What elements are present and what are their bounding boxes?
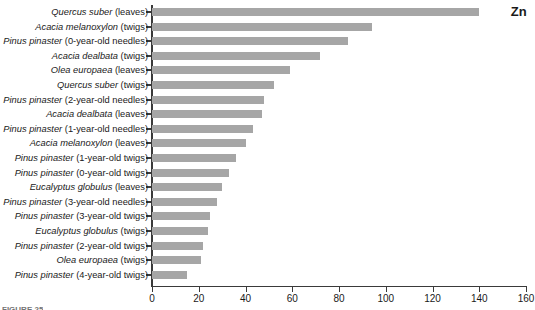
plant-part: (leaves) — [112, 109, 148, 119]
bar — [152, 52, 320, 60]
value-tick-label: 100 — [377, 293, 394, 304]
plant-part: (leaves) — [112, 7, 148, 17]
species-name: Olea europaea — [57, 255, 119, 265]
plant-part: (leaves) — [112, 138, 148, 148]
category-label: Pinus pinaster (0-year-old twigs) — [15, 168, 148, 178]
species-name: Pinus pinaster — [15, 241, 74, 251]
bar — [152, 271, 187, 279]
bar — [152, 154, 236, 162]
species-name: Pinus pinaster — [3, 124, 62, 134]
plant-part: (twigs) — [118, 22, 148, 32]
bar — [152, 110, 262, 118]
species-name: Pinus pinaster — [3, 36, 62, 46]
plant-part: (leaves) — [112, 182, 148, 192]
bar — [152, 242, 203, 250]
category-label: Acacia melanoxylon (leaves) — [30, 138, 148, 148]
bar — [152, 198, 217, 206]
category-label: Quercus suber (twigs) — [57, 80, 148, 90]
plant-part: (1-year-old needles) — [62, 124, 148, 134]
species-name: Quercus suber — [51, 7, 112, 17]
bar — [152, 169, 229, 177]
value-tick-label: 120 — [424, 293, 441, 304]
category-label: Olea europaea (leaves) — [51, 65, 148, 75]
bar — [152, 256, 201, 264]
value-tick — [152, 287, 153, 292]
value-tick-label: 140 — [471, 293, 488, 304]
bar — [152, 23, 372, 31]
species-name: Pinus pinaster — [3, 197, 62, 207]
value-tick-label: 20 — [193, 293, 204, 304]
species-name: Acacia melanoxylon — [30, 138, 113, 148]
bar — [152, 66, 290, 74]
category-label: Acacia dealbata (twigs) — [52, 51, 148, 61]
category-label: Pinus pinaster (2-year-old needles) — [3, 95, 148, 105]
bar — [152, 37, 348, 45]
plant-part: (4-year-old twigs) — [74, 270, 148, 280]
value-tick-label: 60 — [287, 293, 298, 304]
value-tick — [292, 287, 293, 292]
plant-part: (0-year-old twigs) — [74, 168, 148, 178]
category-label: Acacia melanoxylon (twigs) — [35, 22, 148, 32]
value-tick — [246, 287, 247, 292]
category-label: Pinus pinaster (3-year-old twigs) — [15, 211, 148, 221]
value-tick — [433, 287, 434, 292]
category-label: Acacia dealbata (leaves) — [46, 109, 148, 119]
species-name: Acacia dealbata — [46, 109, 112, 119]
value-tick — [339, 287, 340, 292]
plant-part: (1-year-old twigs) — [74, 153, 148, 163]
category-label: Pinus pinaster (3-year-old needles) — [3, 197, 148, 207]
category-label: Olea europaea (twigs) — [57, 255, 148, 265]
plant-part: (2-year-old twigs) — [74, 241, 148, 251]
plant-part: (leaves) — [112, 65, 148, 75]
category-label: Quercus suber (leaves) — [51, 7, 148, 17]
plant-part: (twigs) — [118, 51, 148, 61]
species-name: Pinus pinaster — [15, 168, 74, 178]
plant-part: (twigs) — [118, 80, 148, 90]
plant-part: (twigs) — [118, 255, 148, 265]
value-tick — [199, 287, 200, 292]
plant-part: (0-year-old needles) — [62, 36, 148, 46]
bar — [152, 8, 479, 16]
plant-part: (3-year-old twigs) — [74, 211, 148, 221]
species-name: Quercus suber — [57, 80, 118, 90]
plant-part: (3-year-old needles) — [62, 197, 148, 207]
species-name: Olea europaea — [51, 65, 113, 75]
value-tick — [386, 287, 387, 292]
value-tick-label: 160 — [518, 293, 535, 304]
category-label: Eucalyptus globulus (twigs) — [35, 226, 148, 236]
plant-part: (2-year-old needles) — [62, 95, 148, 105]
species-name: Acacia melanoxylon — [35, 22, 118, 32]
bar — [152, 183, 222, 191]
species-name: Eucalyptus globulus — [30, 182, 113, 192]
bar — [152, 227, 208, 235]
species-name: Eucalyptus globulus — [35, 226, 118, 236]
category-label: Pinus pinaster (2-year-old twigs) — [15, 241, 148, 251]
species-name: Pinus pinaster — [3, 95, 62, 105]
bar — [152, 81, 274, 89]
species-name: Pinus pinaster — [15, 270, 74, 280]
value-tick — [526, 287, 527, 292]
category-label: Pinus pinaster (1-year-old needles) — [3, 124, 148, 134]
category-label: Eucalyptus globulus (leaves) — [30, 182, 148, 192]
category-label: Pinus pinaster (0-year-old needles) — [3, 36, 148, 46]
bar — [152, 212, 210, 220]
plant-part: (twigs) — [118, 226, 148, 236]
bar — [152, 139, 246, 147]
value-tick-label: 40 — [240, 293, 251, 304]
figure-caption-fragment: FIGURE 25 — [2, 305, 43, 310]
bar — [152, 96, 264, 104]
value-tick-label: 0 — [149, 293, 155, 304]
category-label: Pinus pinaster (1-year-old twigs) — [15, 153, 148, 163]
species-name: Pinus pinaster — [15, 153, 74, 163]
species-name: Acacia dealbata — [52, 51, 118, 61]
value-tick — [479, 287, 480, 292]
zn-bar-chart-figure: Zn FIGURE 25 Quercus suber (leaves)Acaci… — [0, 0, 535, 310]
species-name: Pinus pinaster — [15, 211, 74, 221]
bar — [152, 125, 253, 133]
value-tick-label: 80 — [333, 293, 344, 304]
category-label: Pinus pinaster (4-year-old twigs) — [15, 270, 148, 280]
